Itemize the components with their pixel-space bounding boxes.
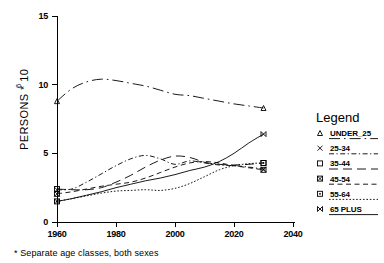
legend-item-label: 25-34: [330, 144, 351, 153]
legend-item-45-54[interactable]: 45-54: [318, 175, 379, 185]
x-tick-label-2040: 2040: [283, 229, 302, 239]
legend-item-label: 55-64: [330, 190, 351, 199]
bowtie-marker: [261, 132, 266, 137]
legend-item-35-44[interactable]: 35-44: [318, 159, 379, 169]
legend: Legend UNDER_2525-3435-4445-5455-6465 PL…: [316, 110, 378, 215]
x-tick-label-1960: 1960: [47, 229, 66, 239]
x-axis-ticks: 1960 1980 2000 2020 2040: [47, 222, 302, 239]
square-crossed-marker: [318, 176, 323, 181]
triangle-marker: [261, 106, 266, 111]
footnote-text: * Separate age classes, both sexes: [14, 248, 159, 258]
legend-item-65-plus[interactable]: 65 PLUS: [318, 205, 379, 215]
x-tick-label-2020: 2020: [224, 229, 243, 239]
legend-item-25-34[interactable]: 25-34: [318, 144, 379, 154]
y-axis-title-text: PERSONS * 10: [18, 69, 30, 150]
legend-item-label: 45-54: [330, 175, 351, 184]
y-axis-title-exponent: 6: [14, 84, 23, 88]
series-line: [57, 134, 264, 201]
x-tick-label-2000: 2000: [165, 229, 184, 239]
series-65-plus: [55, 132, 267, 204]
triangle-marker: [318, 131, 323, 136]
cross-marker: [318, 146, 323, 151]
series-line: [57, 163, 264, 201]
series-line: [57, 79, 264, 108]
legend-item-label: 65 PLUS: [330, 205, 363, 214]
legend-items: UNDER_2525-3435-4445-5455-6465 PLUS: [318, 129, 379, 215]
chart-page: PERSONS * 10 6 0 5 10 15 1960 1980 2000: [0, 0, 384, 263]
y-tick-label-0: 0: [43, 217, 48, 227]
y-tick-label-10: 10: [38, 80, 48, 90]
series-layer: [55, 79, 267, 204]
series-45-54: [55, 162, 267, 197]
legend-item-label: UNDER_25: [330, 129, 372, 138]
bowtie-marker: [318, 207, 323, 212]
legend-title: Legend: [316, 110, 359, 125]
legend-item-55-64[interactable]: 55-64: [318, 190, 379, 200]
series-35-44: [55, 156, 267, 192]
series-25-34: [55, 155, 267, 192]
x-tick-label-1980: 1980: [106, 229, 125, 239]
square-dotted-marker: [318, 191, 323, 196]
y-tick-label-15: 15: [38, 11, 48, 21]
square-crossed-marker: [261, 167, 266, 172]
line-chart: PERSONS * 10 6 0 5 10 15 1960 1980 2000: [0, 0, 384, 263]
y-axis-title: PERSONS * 10 6: [14, 69, 30, 150]
y-tick-label-5: 5: [43, 148, 48, 158]
legend-item-under-25[interactable]: UNDER_25: [318, 129, 379, 139]
legend-item-label: 35-44: [330, 159, 351, 168]
series-under-25: [55, 79, 267, 110]
footnote: * Separate age classes, both sexes: [14, 248, 159, 258]
square-marker: [318, 161, 323, 166]
